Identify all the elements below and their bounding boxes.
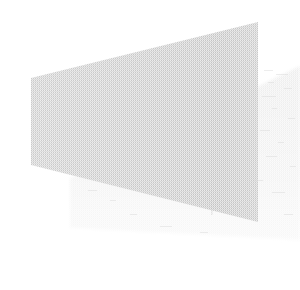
figure-svg [0, 0, 300, 290]
scanned-figure-canvas [0, 0, 300, 290]
dither-texture-overlay [0, 0, 300, 290]
